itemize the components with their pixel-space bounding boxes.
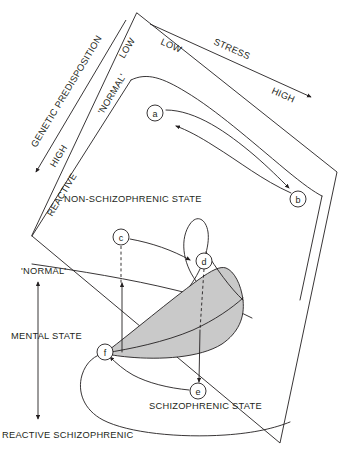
mental-state-top-label: 'NORMAL' <box>21 266 66 276</box>
marker-e-label: e <box>195 387 200 397</box>
marker-a-label: a <box>152 109 157 119</box>
cusp-shaded-area <box>105 268 243 359</box>
marker-e[interactable]: e <box>190 383 206 399</box>
mental-state-axis-label: MENTAL STATE <box>11 331 82 341</box>
lower-leaf-front-edge <box>80 353 290 436</box>
stress-axis-arrow <box>150 24 311 97</box>
behaviour-surface-right-edge <box>300 196 322 300</box>
stress-axis-label: STRESS <box>212 37 251 62</box>
marker-c-label: c <box>119 233 124 243</box>
marker-a[interactable]: a <box>147 105 163 121</box>
region-label-schizophrenic: SCHIZOPHRENIC STATE <box>149 401 262 411</box>
genetic-axis-label: GENETIC PREDISPOSITION <box>29 34 104 149</box>
marker-b[interactable]: b <box>290 191 306 207</box>
bifurcation-cusp-region <box>105 268 243 359</box>
trajectory-c-d <box>130 239 190 260</box>
arrow-e-to-f <box>110 357 189 390</box>
genetic-low-label: LOW <box>117 36 137 60</box>
cusp-catastrophe-figure: LOW STRESS HIGH GENETIC PREDISPOSITION L… <box>0 0 349 458</box>
mental-state-bottom-label: REACTIVE SCHIZOPHRENIC <box>2 430 134 440</box>
marker-d-label: d <box>201 257 206 267</box>
marker-b-label: b <box>295 195 300 205</box>
marker-f[interactable]: f <box>97 344 113 360</box>
marker-c[interactable]: c <box>113 229 129 245</box>
stress-axis: LOW STRESS HIGH <box>150 24 311 105</box>
stress-low-label: LOW <box>159 37 183 55</box>
path-c-to-d <box>130 239 190 260</box>
catastrophe-diagram-canvas: LOW STRESS HIGH GENETIC PREDISPOSITION L… <box>0 0 349 458</box>
marker-d[interactable]: d <box>196 253 212 269</box>
region-label-non-schizophrenic: NON-SCHIZOPHRENIC STATE <box>64 194 202 204</box>
